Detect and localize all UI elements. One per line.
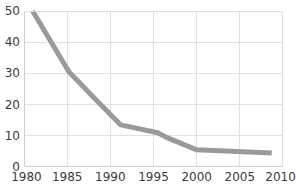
y-tick-label: 40 bbox=[5, 36, 20, 48]
y-axis-tick-labels: 01020304050 bbox=[0, 0, 20, 189]
x-axis-tick-labels: 1980198519901995200020052010 bbox=[0, 170, 296, 188]
y-tick-label: 20 bbox=[5, 99, 20, 111]
plot-area bbox=[24, 11, 283, 167]
y-tick-label: 30 bbox=[5, 67, 20, 79]
axis-frame bbox=[24, 11, 283, 167]
x-tick-label: 1985 bbox=[52, 170, 83, 184]
x-tick-label: 2010 bbox=[265, 170, 296, 184]
x-tick-label: 1980 bbox=[11, 170, 42, 184]
y-tick-label: 10 bbox=[5, 130, 20, 142]
x-tick-label: 2005 bbox=[225, 170, 256, 184]
x-tick-label: 1990 bbox=[95, 170, 126, 184]
x-tick-label: 2000 bbox=[181, 170, 212, 184]
x-tick-label: 1995 bbox=[138, 170, 169, 184]
line-chart: 01020304050 1980198519901995200020052010 bbox=[0, 0, 296, 189]
y-tick-label: 50 bbox=[5, 5, 20, 17]
